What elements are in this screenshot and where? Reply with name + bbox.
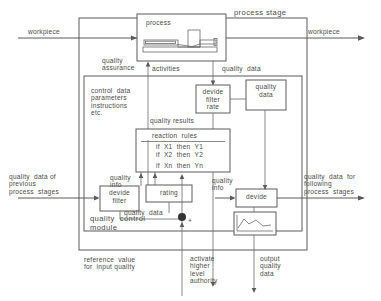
devide-right-label: devide [236,193,277,201]
workpiece-in-label: workpiece [28,28,60,35]
quality-info-right-label: quality info [212,177,233,192]
reaction-rule-3: if Xn then Yn [156,162,203,169]
qa-activities-arrow [146,62,151,67]
quality-data-following-label: quality data for following process stage… [304,173,355,195]
activities-label: activities [152,65,180,72]
reaction-rule-1: if X1 then Y1 [156,143,203,150]
following-stage-arrow [358,195,365,200]
process-box-label: process [146,19,171,26]
workpiece-arrow-out [358,35,365,41]
quality-data-previous-label: quality data of previous process stages [9,173,59,195]
quality-assurance-label: quality assurance [102,57,135,72]
devide-filter-rate-label: devide filter rate [196,88,230,111]
reference-value-label: reference value for input quality [84,256,135,271]
rules-to-rating-arrow [153,173,158,178]
chart-box [234,212,276,235]
quality-info-left-label: quality info [110,174,131,189]
junction-to-rules-arrow [180,174,185,179]
rules-to-devide-filter-arrow [139,173,144,178]
control-data-label: control data parameters instructions etc… [91,87,131,117]
workpiece-arrow-in [131,35,137,40]
summing-junction [178,213,186,221]
devide-right-in-arrow [230,196,236,201]
output-quality-data-label: output quality data [260,255,281,277]
quality-data-top-label: quality data [222,65,261,72]
reaction-rules-title: reaction rules [152,132,197,139]
quality-control-module-label: quality control module [90,215,145,233]
figure-title: process stage [234,9,286,18]
output-quality-data-arrow [252,288,257,293]
quality-data-store-label: quality data [246,83,286,98]
workpiece-out-label: workpiece [308,28,340,35]
plus-sign-label: + [188,217,192,224]
rating-label: rating [146,189,192,197]
reaction-rule-2: if X2 then Y2 [156,151,203,158]
activate-authority-label: activate higher level authority [190,255,218,285]
quality-results-label: quality results [150,117,194,124]
previous-stage-arrow [94,196,100,201]
devide-filter-label: devide filter [100,189,139,204]
reference-value-arrow [180,222,185,227]
